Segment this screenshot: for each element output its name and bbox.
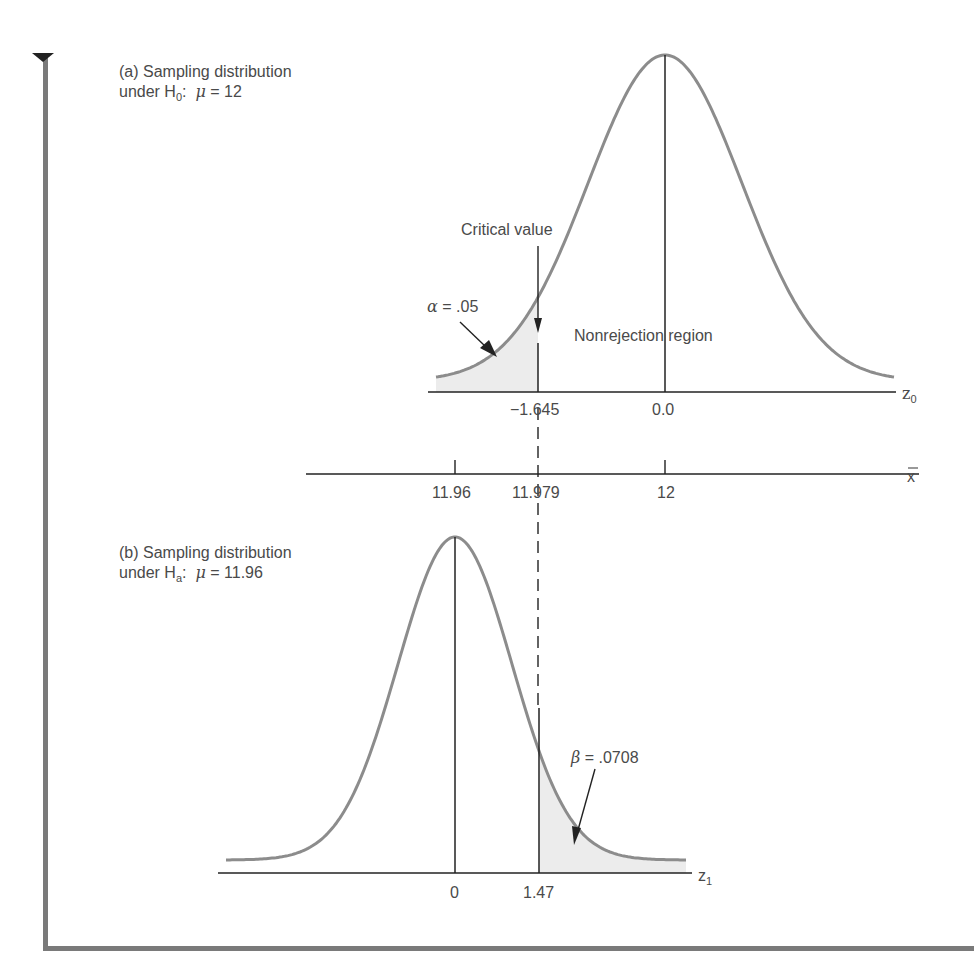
tick-label-0-0: 0.0 — [652, 400, 674, 420]
xbar-tick-11-979: 11.979 — [512, 483, 560, 503]
frame-marker-icon — [32, 53, 54, 62]
alpha-symbol: α — [427, 297, 438, 316]
tick-label-1-47: 1.47 — [523, 883, 554, 903]
chart-canvas — [0, 0, 974, 977]
panel-b-subtitle: under Ha: μ = 11.96 — [119, 563, 263, 588]
panel-b-title: (b) Sampling distribution — [119, 543, 292, 563]
z1-sub: 1 — [706, 875, 712, 887]
mu-symbol: μ — [195, 82, 205, 101]
xbar-tick-11-96: 11.96 — [432, 483, 471, 503]
z-var: z — [698, 867, 706, 884]
beta-label: β = .0708 — [571, 748, 639, 768]
panel-b-title-line1: (b) Sampling distribution — [119, 544, 292, 561]
z0-sub: 0 — [910, 393, 916, 405]
tick-label-neg1645: −1.645 — [510, 400, 559, 420]
ha-mean-value: = 11.96 — [210, 564, 263, 581]
beta-arrow — [578, 769, 595, 830]
alpha-arrow — [460, 322, 486, 347]
beta-value: = .0708 — [585, 749, 639, 766]
frame-bottom-bar — [43, 946, 974, 951]
ha-distribution-curve — [226, 537, 686, 860]
h0-mean-value: = 12 — [210, 83, 242, 100]
panel-a-subtitle: under H0: μ = 12 — [119, 82, 242, 107]
xbar-tick-12: 12 — [657, 483, 675, 503]
z1-axis-label: z1 — [698, 866, 712, 891]
critical-value-label: Critical value — [461, 220, 553, 240]
mu-symbol: μ — [195, 563, 205, 582]
xbar-axis-label: x — [907, 467, 915, 487]
h0-subscript: 0 — [176, 91, 182, 103]
alpha-value: = .05 — [442, 298, 478, 315]
panel-a-title: (a) Sampling distribution — [119, 62, 292, 82]
frame-left-bar — [43, 58, 48, 951]
tick-label-0: 0 — [450, 883, 459, 903]
panel-a-title-line1: (a) Sampling distribution — [119, 63, 292, 80]
alpha-label: α = .05 — [427, 297, 478, 317]
z0-axis-label: z0 — [902, 384, 917, 409]
arrowhead-icon — [480, 340, 497, 357]
beta-shaded-region — [539, 754, 686, 873]
beta-symbol: β — [571, 748, 580, 767]
nonrejection-region-label: Nonrejection region — [574, 326, 713, 346]
h0-label: under H — [119, 83, 176, 100]
ha-label: under H — [119, 564, 176, 581]
ha-subscript: a — [176, 572, 182, 584]
